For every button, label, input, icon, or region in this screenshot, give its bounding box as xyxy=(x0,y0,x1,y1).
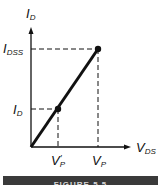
idss-label: IDSS xyxy=(3,42,23,57)
figure-caption-bar: FIGURE 5.5 xyxy=(3,176,158,185)
pinch-off-point xyxy=(95,46,101,52)
id-label: ID xyxy=(13,103,22,118)
y-axis-label: ID xyxy=(26,7,35,22)
figure-caption: FIGURE 5.5 xyxy=(3,180,158,185)
x-axis-label: VDS xyxy=(136,141,156,156)
vp-prime-label: VP′ xyxy=(51,154,67,169)
x-axis-arrow-icon xyxy=(124,145,131,150)
plot-canvas xyxy=(0,0,163,185)
vp-label: VP xyxy=(92,154,106,169)
resistance-line xyxy=(31,49,98,147)
operating-point xyxy=(55,106,61,112)
y-axis-arrow-icon xyxy=(29,27,34,34)
